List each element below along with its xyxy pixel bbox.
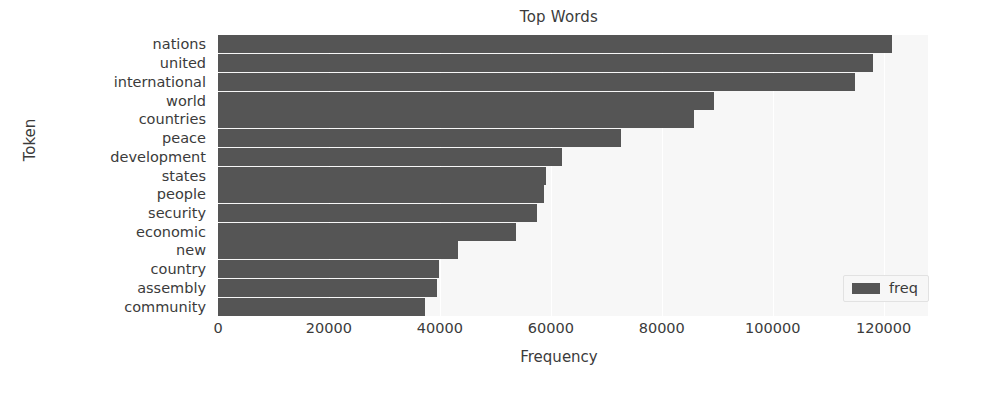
y-tick-label-assembly: assembly	[137, 279, 206, 297]
bar-assembly[interactable]	[218, 279, 437, 297]
y-tick-label-new: new	[176, 241, 206, 259]
x-tick-label-80000: 80000	[639, 320, 685, 336]
y-tick-label-economic: economic	[136, 223, 206, 241]
y-tick-label-country: country	[151, 260, 206, 278]
x-axis-tick-labels: 020000400006000080000100000120000	[0, 320, 992, 342]
bar-countries[interactable]	[218, 110, 694, 128]
bar-row[interactable]	[218, 110, 928, 128]
bar-security[interactable]	[218, 204, 537, 222]
bar-row[interactable]	[218, 148, 928, 166]
y-tick-label-united: united	[160, 54, 206, 72]
bar-united[interactable]	[218, 54, 873, 72]
bar-economic[interactable]	[218, 223, 516, 241]
bar-row[interactable]	[218, 204, 928, 222]
plot-area	[218, 35, 928, 316]
bar-row[interactable]	[218, 92, 928, 110]
y-tick-label-countries: countries	[139, 110, 206, 128]
x-tick-label-60000: 60000	[528, 320, 574, 336]
chart-title: Top Words	[218, 8, 900, 26]
bar-row[interactable]	[218, 241, 928, 259]
legend-label-freq: freq	[889, 281, 918, 296]
bar-row[interactable]	[218, 167, 928, 185]
y-axis-tick-labels: nationsunitedinternationalworldcountries…	[0, 35, 212, 316]
x-tick-label-20000: 20000	[306, 320, 352, 336]
x-tick-label-100000: 100000	[745, 320, 800, 336]
y-tick-label-world: world	[166, 92, 206, 110]
bar-development[interactable]	[218, 148, 562, 166]
x-axis-label: Frequency	[218, 348, 900, 366]
y-tick-label-states: states	[162, 167, 206, 185]
bar-nations[interactable]	[218, 35, 892, 53]
x-tick-label-0: 0	[213, 320, 222, 336]
y-tick-label-development: development	[110, 148, 206, 166]
y-tick-label-security: security	[148, 204, 206, 222]
bar-peace[interactable]	[218, 129, 621, 147]
bar-row[interactable]	[218, 260, 928, 278]
bar-states[interactable]	[218, 167, 546, 185]
y-tick-label-peace: peace	[162, 129, 206, 147]
bar-new[interactable]	[218, 241, 458, 259]
x-tick-label-40000: 40000	[417, 320, 463, 336]
y-tick-label-community: community	[124, 298, 206, 316]
bar-row[interactable]	[218, 279, 928, 297]
bar-world[interactable]	[218, 92, 714, 110]
bar-row[interactable]	[218, 54, 928, 72]
chart-figure: Top Words Token nationsunitedinternation…	[0, 0, 992, 397]
bar-row[interactable]	[218, 73, 928, 91]
chart-legend[interactable]: freq	[843, 275, 929, 302]
bar-row[interactable]	[218, 185, 928, 203]
legend-swatch-freq	[852, 283, 880, 294]
bar-people[interactable]	[218, 185, 544, 203]
bar-community[interactable]	[218, 298, 425, 316]
bar-international[interactable]	[218, 73, 855, 91]
y-tick-label-people: people	[157, 185, 206, 203]
bar-row[interactable]	[218, 298, 928, 316]
y-tick-label-international: international	[114, 73, 206, 91]
bar-row[interactable]	[218, 35, 928, 53]
bar-country[interactable]	[218, 260, 439, 278]
bar-row[interactable]	[218, 223, 928, 241]
y-tick-label-nations: nations	[153, 35, 206, 53]
x-tick-label-120000: 120000	[856, 320, 911, 336]
bar-row[interactable]	[218, 129, 928, 147]
